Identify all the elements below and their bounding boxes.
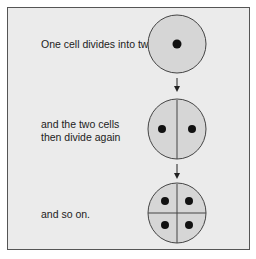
nucleus-icon xyxy=(185,221,193,229)
nucleus-icon xyxy=(158,125,166,133)
nucleus-icon xyxy=(161,197,169,205)
arrow-down-icon xyxy=(174,164,180,179)
nucleus-icon xyxy=(185,197,193,205)
four-cell-stage xyxy=(148,183,206,243)
cell-division-illustration xyxy=(0,0,256,259)
nucleus-icon xyxy=(188,125,196,133)
nucleus-icon xyxy=(161,221,169,229)
single-cell xyxy=(148,15,206,73)
arrow-down-icon xyxy=(174,78,180,92)
nucleus-icon xyxy=(173,40,182,49)
two-cell-stage xyxy=(148,99,206,159)
